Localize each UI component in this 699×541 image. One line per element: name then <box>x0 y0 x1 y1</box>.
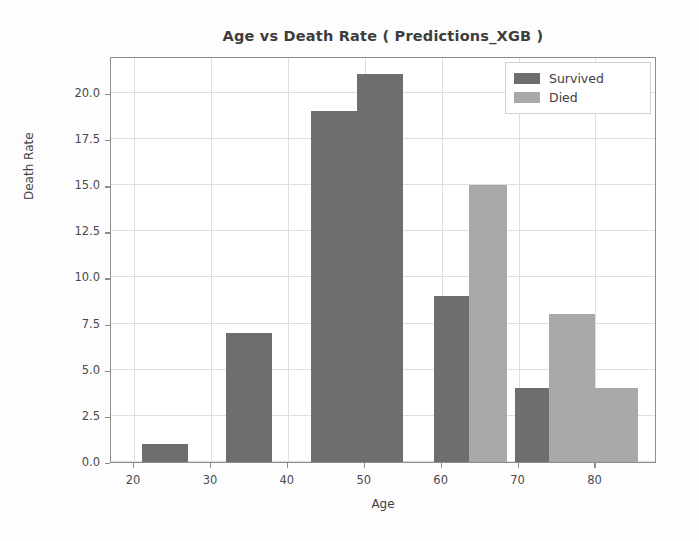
bar-survived <box>434 296 469 462</box>
y-tick-mark <box>105 463 110 464</box>
bar-survived <box>226 333 272 462</box>
x-tick-label: 60 <box>433 473 448 487</box>
bar-died <box>469 185 507 462</box>
bar-died <box>595 388 637 462</box>
y-axis-label: Death Rate <box>22 132 36 200</box>
x-tick-mark <box>133 463 134 468</box>
bar-survived <box>311 111 357 462</box>
bar-survived <box>357 74 403 462</box>
y-tick-label: 20.0 <box>74 86 100 100</box>
legend-item[interactable]: Died <box>514 88 642 107</box>
x-tick-mark <box>518 463 519 468</box>
legend-swatch-icon <box>514 73 540 84</box>
x-tick-mark <box>594 463 595 468</box>
x-tick-label: 50 <box>356 473 371 487</box>
x-axis-label: Age <box>110 497 656 511</box>
bar-died <box>549 314 595 462</box>
y-tick-label: 7.5 <box>82 317 100 331</box>
x-tick-label: 20 <box>126 473 141 487</box>
chart-figure: Age vs Death Rate ( Predictions_XGB ) De… <box>0 0 699 541</box>
legend-item[interactable]: Survived <box>514 69 642 88</box>
x-tick-label: 80 <box>587 473 602 487</box>
x-tick-label: 70 <box>510 473 525 487</box>
y-tick-label: 2.5 <box>82 409 100 423</box>
gridline-vertical <box>211 58 212 462</box>
gridline-vertical <box>134 58 135 462</box>
y-tick-label: 15.0 <box>74 178 100 192</box>
legend-swatch-icon <box>514 92 540 103</box>
x-tick-mark <box>210 463 211 468</box>
y-tick-label: 5.0 <box>82 363 100 377</box>
plot-area <box>110 57 656 463</box>
x-tick-label: 30 <box>203 473 218 487</box>
x-tick-mark <box>287 463 288 468</box>
bar-survived <box>515 388 550 462</box>
y-tick-label: 12.5 <box>74 224 100 238</box>
chart-legend: SurvivedDied <box>505 62 651 114</box>
y-tick-label: 0.0 <box>82 455 100 469</box>
bar-survived <box>142 444 188 462</box>
y-tick-label: 17.5 <box>74 132 100 146</box>
gridline-vertical <box>288 58 289 462</box>
legend-label: Died <box>549 90 578 105</box>
chart-title: Age vs Death Rate ( Predictions_XGB ) <box>110 28 656 44</box>
y-tick-label: 10.0 <box>74 270 100 284</box>
legend-label: Survived <box>549 71 604 86</box>
x-tick-mark <box>441 463 442 468</box>
x-tick-mark <box>364 463 365 468</box>
x-tick-label: 40 <box>280 473 295 487</box>
